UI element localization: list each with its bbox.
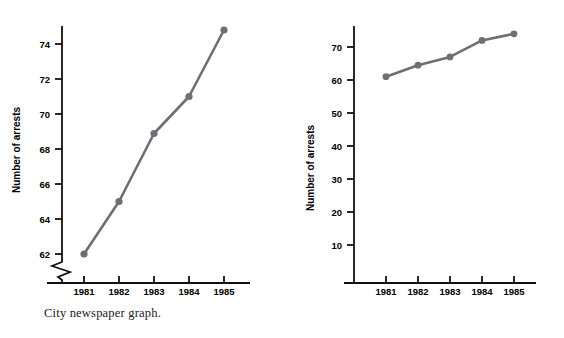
y-tick-label: 60	[331, 75, 342, 86]
data-point-marker	[185, 93, 192, 100]
y-tick-label: 40	[331, 141, 342, 152]
y-tick-label: 50	[331, 108, 342, 119]
data-point-markers	[80, 26, 227, 257]
x-tick-label: 1985	[503, 286, 525, 297]
y-tick-label: 30	[331, 174, 342, 185]
data-point-marker	[115, 198, 122, 205]
y-axis-title: Number of arrests	[305, 124, 316, 211]
y-tick-label: 68	[39, 144, 50, 155]
y-tick-label: 70	[331, 42, 342, 53]
data-point-marker	[220, 26, 227, 33]
y-axis-ticks	[347, 47, 354, 245]
y-tick-label: 70	[39, 109, 50, 120]
x-tick-label: 1983	[143, 286, 164, 297]
y-tick-label: 64	[39, 214, 50, 225]
data-point-marker	[80, 250, 87, 257]
data-point-marker	[479, 37, 486, 44]
y-axis-ticks	[55, 44, 62, 254]
college-student-newspaper-chart-svg: 70 60 50 40 30 20 10 1981 1982 1983 1984…	[282, 0, 564, 300]
y-axis-break-icon	[52, 256, 70, 283]
city-newspaper-chart-svg: 74 72 70 68 66 64 62 1981 1982 1983 1984…	[0, 0, 282, 300]
data-point-marker	[447, 54, 454, 61]
chart-caption-city-newspaper: City newspaper graph.	[44, 306, 161, 321]
x-tick-label: 1982	[108, 286, 129, 297]
data-point-marker	[415, 62, 422, 69]
x-tick-label: 1984	[471, 286, 493, 297]
data-point-marker	[383, 73, 390, 80]
y-tick-label: 10	[331, 240, 342, 251]
y-tick-label: 62	[39, 249, 50, 260]
y-tick-label: 66	[39, 179, 50, 190]
x-tick-label: 1982	[407, 286, 428, 297]
data-line-series-arrests	[84, 30, 224, 254]
figure-pair: 74 72 70 68 66 64 62 1981 1982 1983 1984…	[0, 0, 564, 338]
x-tick-label: 1983	[439, 286, 460, 297]
x-tick-label: 1981	[73, 286, 95, 297]
y-tick-label: 72	[39, 74, 50, 85]
data-point-marker	[511, 30, 518, 37]
x-axis-ticks	[386, 276, 514, 283]
x-tick-label: 1981	[375, 286, 397, 297]
chart-panel-city-newspaper: 74 72 70 68 66 64 62 1981 1982 1983 1984…	[0, 0, 282, 338]
x-axis-ticks	[84, 276, 224, 283]
data-point-marker	[150, 130, 157, 137]
chart-panel-college-student-newspaper: 70 60 50 40 30 20 10 1981 1982 1983 1984…	[282, 0, 564, 338]
x-tick-label: 1985	[213, 286, 235, 297]
y-tick-label: 74	[39, 39, 50, 50]
y-axis-title: Number of arrests	[11, 106, 22, 193]
x-tick-label: 1984	[178, 286, 200, 297]
y-tick-label: 20	[331, 207, 342, 218]
